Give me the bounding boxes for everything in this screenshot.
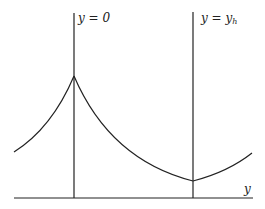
label-yh-subscript: h — [232, 17, 237, 26]
label-yh-main: y = y — [200, 11, 232, 25]
curve-left-rising — [14, 76, 74, 152]
label-y-equals-0: y = 0 — [77, 11, 110, 25]
diagram: y = 0 y = yh y — [0, 0, 265, 209]
label-y-equals-yh: y = yh — [200, 11, 237, 26]
curve-right-rising — [193, 153, 252, 181]
curve-middle-decay — [74, 76, 193, 181]
axis-label-y: y — [243, 182, 251, 196]
